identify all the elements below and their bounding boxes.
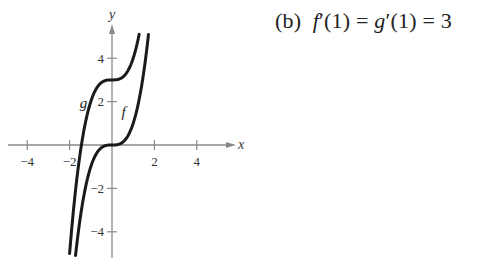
y-tick-label: −4 (90, 224, 104, 239)
caption-f-derivative: ′(1) = (319, 8, 374, 33)
caption-part-label: (b) (275, 8, 301, 33)
x-axis-label: x (237, 137, 245, 152)
caption-g: g (374, 8, 385, 33)
curve-label-g: g (80, 95, 88, 111)
x-axis-arrow-icon (226, 142, 236, 148)
x-tick-label: −4 (20, 154, 34, 169)
y-axis-arrow-icon (109, 24, 115, 34)
y-tick-label: −2 (90, 181, 104, 196)
y-axis-label: y (107, 7, 116, 22)
curve-label-f: f (122, 104, 128, 120)
caption: (b) f′(1) = g′(1) = 3 (275, 8, 452, 34)
caption-g-derivative: ′(1) = 3 (385, 8, 451, 33)
x-tick-label: 4 (194, 154, 201, 169)
y-tick-label: 2 (98, 94, 105, 109)
x-tick-label: 2 (151, 154, 158, 169)
function-graph: −4−224−4−224xyfg (0, 0, 250, 267)
x-tick-label: −2 (63, 154, 77, 169)
y-tick-label: 4 (98, 51, 105, 66)
